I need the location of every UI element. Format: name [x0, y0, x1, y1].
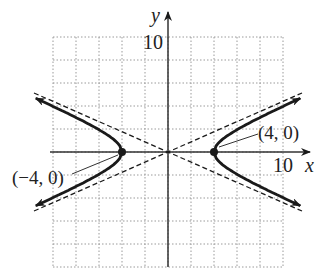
- point-label-right: (4, 0): [258, 122, 299, 144]
- hyperbola-graph: y 10 10 x (4, 0) (−4, 0): [0, 0, 328, 274]
- x-axis-label: x: [304, 154, 314, 176]
- vertex-left: [118, 148, 126, 156]
- leader-lines: [72, 134, 258, 174]
- x-tick-label: 10: [273, 154, 293, 176]
- vertex-right: [210, 148, 218, 156]
- point-label-left: (−4, 0): [12, 167, 64, 189]
- y-axis-label: y: [149, 4, 160, 27]
- y-tick-label: 10: [143, 31, 163, 53]
